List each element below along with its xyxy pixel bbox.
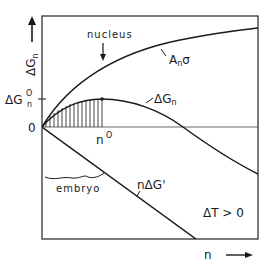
nucleus-label: nucleus <box>87 29 133 40</box>
right-arrow-icon <box>226 252 253 258</box>
x-tick-label-critical: n <box>96 133 104 147</box>
embryo-label: embryo <box>56 183 100 194</box>
total-curve-label: ΔGn <box>154 92 177 107</box>
y-axis-label: ΔGn <box>24 53 40 76</box>
x-axis-label: n <box>204 248 212 262</box>
y-tick-sub: n <box>27 100 32 109</box>
svg-text:ΔGn: ΔGn <box>24 53 40 76</box>
embryo-brace <box>45 173 104 179</box>
down-arrow-icon <box>100 43 106 61</box>
total-label-leader <box>146 98 153 103</box>
y-tick-sup: O <box>26 89 32 98</box>
condition-label: ΔT > 0 <box>203 206 244 220</box>
embryo-hatching <box>46 99 102 127</box>
volume-curve-label: nΔG' <box>137 178 165 192</box>
up-arrow-icon <box>28 16 36 42</box>
critical-point <box>100 97 104 101</box>
y-tick-label-zero: 0 <box>28 121 36 135</box>
x-tick-sup: O <box>106 131 112 140</box>
nucleation-diagram: ΔGn ΔG O n 0 n O nucleus Anσ ΔGn nΔG' em… <box>0 0 274 273</box>
surface-curve-label: Anσ <box>169 53 190 68</box>
surface-label-leader <box>161 49 166 56</box>
y-tick-label-critical: ΔG <box>5 93 23 107</box>
